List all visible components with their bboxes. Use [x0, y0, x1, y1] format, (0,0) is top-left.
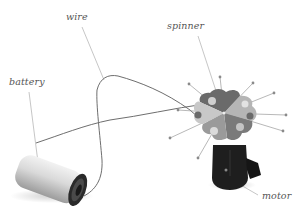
- spinner-label: spinner: [167, 20, 204, 31]
- circuit-diagram: wire battery spinner motor: [0, 0, 298, 211]
- wire-label: wire: [66, 11, 88, 22]
- wire-leader-line: [82, 27, 104, 80]
- battery-label: battery: [9, 76, 45, 87]
- spinner-leader-line: [198, 36, 218, 97]
- motor-label: motor: [262, 190, 291, 201]
- spinner-icon: [194, 89, 257, 140]
- diagram-graphics: [0, 0, 298, 211]
